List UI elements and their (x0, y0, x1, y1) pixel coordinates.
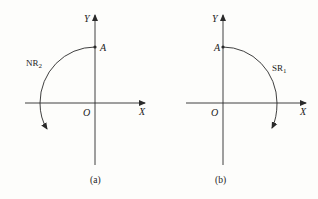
point-a-label-a: A (100, 43, 106, 53)
x-axis-label-b: X (300, 107, 306, 117)
caption-a: (a) (90, 176, 101, 186)
arc-label-subscript: 1 (283, 67, 287, 75)
y-axis-label-b: Y (212, 14, 218, 24)
arc-label-text: SR (272, 63, 283, 73)
x-axis-label-a: X (139, 107, 145, 117)
arc-label-sr1: SR1 (272, 64, 287, 75)
arc-sr1 (223, 47, 277, 128)
origin-label-b: O (211, 108, 218, 118)
diagram-canvas (0, 0, 318, 199)
arc-label-text: NR (26, 58, 39, 68)
point-a-label-b: A (214, 43, 220, 53)
panel-a (25, 15, 145, 165)
caption-b: (b) (215, 176, 226, 186)
origin-label-a: O (83, 108, 90, 118)
arc-label-nr2: NR2 (26, 59, 42, 70)
panel-b (186, 15, 306, 165)
y-axis-label-a: Y (84, 14, 90, 24)
arc-label-subscript: 2 (39, 62, 43, 70)
